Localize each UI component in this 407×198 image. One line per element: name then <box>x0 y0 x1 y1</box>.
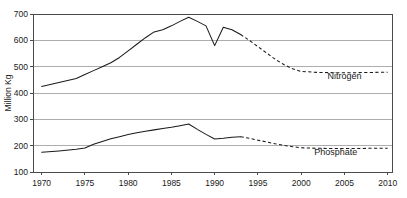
x-axis-tick-label: 1980 <box>119 178 138 188</box>
y-axis-tick-label: 500 <box>14 62 28 72</box>
y-axis-title: Million Kg <box>3 74 13 111</box>
x-axis-tick-label: 1995 <box>248 178 267 188</box>
x-axis-tick-label: 1985 <box>162 178 181 188</box>
series-label-nitrogen: Nitrogen <box>327 71 361 81</box>
y-axis-tick-label: 700 <box>14 9 28 19</box>
chart-container: 1002003004005006007001970197519801985199… <box>0 0 407 198</box>
y-axis-tick-label: 400 <box>14 88 28 98</box>
y-axis-tick-label: 100 <box>14 167 28 177</box>
y-axis-tick-label: 200 <box>14 141 28 151</box>
y-axis-tick-label: 300 <box>14 114 28 124</box>
y-axis-tick-label: 600 <box>14 35 28 45</box>
line-chart: 1002003004005006007001970197519801985199… <box>0 0 407 198</box>
x-axis-tick-label: 1970 <box>32 178 51 188</box>
x-axis-tick-label: 2010 <box>378 178 397 188</box>
x-axis-tick-label: 2000 <box>292 178 311 188</box>
series-line-phosphate-actual <box>42 124 241 152</box>
x-axis-tick-label: 1990 <box>205 178 224 188</box>
x-axis-tick-label: 2005 <box>335 178 354 188</box>
series-line-nitrogen-actual <box>42 17 241 86</box>
series-label-phosphate: Phosphate <box>314 147 357 157</box>
x-axis-tick-label: 1975 <box>75 178 94 188</box>
